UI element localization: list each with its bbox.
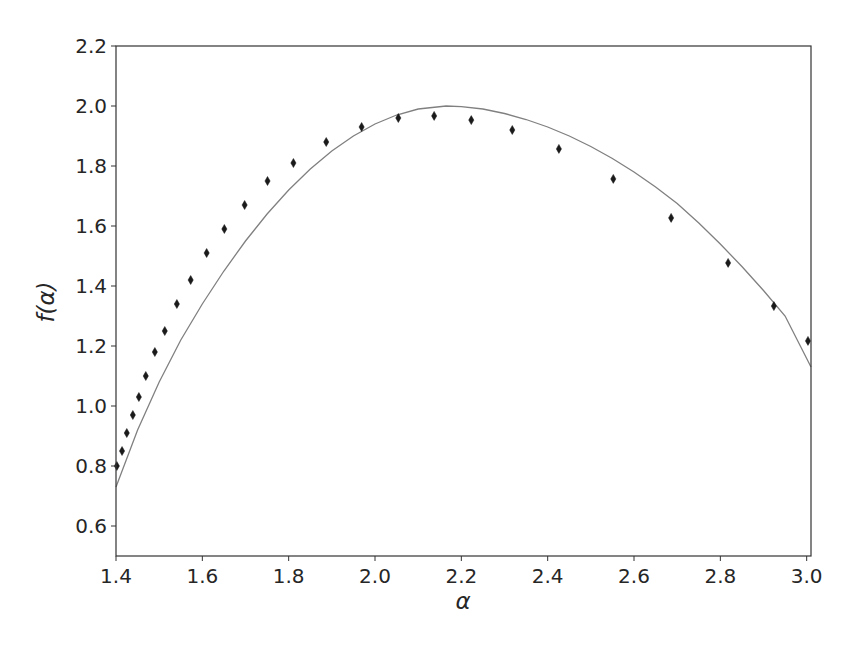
y-tick-label: 1.6	[75, 214, 107, 238]
y-tick-label: 1.0	[75, 394, 107, 418]
y-tick-label: 0.6	[75, 514, 107, 538]
y-tick-label: 1.8	[75, 154, 107, 178]
x-tick-label: 1.8	[273, 564, 305, 588]
x-tick-label: 1.6	[186, 564, 218, 588]
y-tick-label: 0.8	[75, 454, 107, 478]
y-tick-label: 1.4	[75, 274, 107, 298]
x-tick-label: 3.0	[791, 564, 823, 588]
x-tick-label: 2.0	[359, 564, 391, 588]
x-tick-label: 2.6	[618, 564, 650, 588]
x-tick-label: 2.2	[445, 564, 477, 588]
x-tick-label: 2.4	[532, 564, 564, 588]
y-tick-label: 2.0	[75, 94, 107, 118]
x-tick-label: 1.4	[100, 564, 132, 588]
chart-background	[0, 0, 860, 646]
y-axis-label: f(α)	[33, 281, 59, 322]
chart: 1.41.61.82.02.22.42.62.83.0 0.60.81.01.2…	[0, 0, 860, 646]
x-axis-label: α	[455, 588, 470, 614]
y-tick-label: 1.2	[75, 334, 107, 358]
x-tick-label: 2.8	[704, 564, 736, 588]
y-tick-label: 2.2	[75, 34, 107, 58]
